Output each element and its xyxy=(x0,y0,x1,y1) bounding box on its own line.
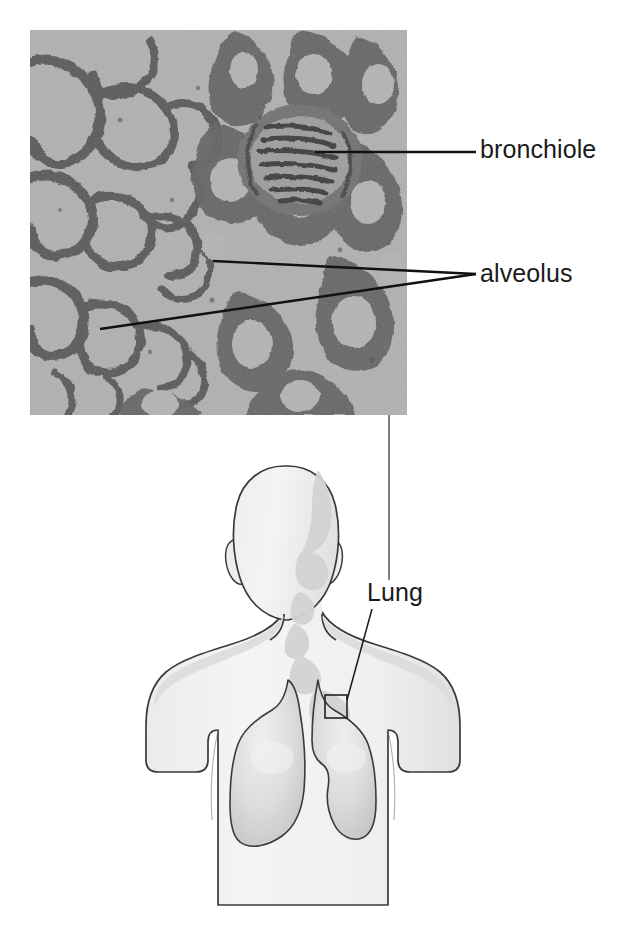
arm-crease-left xyxy=(211,730,218,820)
label-lung: Lung xyxy=(367,578,423,607)
lung-tissue-micrograph xyxy=(30,30,407,418)
human-torso-front-view xyxy=(146,466,460,905)
label-alveolus: alveolus xyxy=(480,259,573,288)
arm-crease-right xyxy=(388,730,395,820)
lung-histology-figure: bronchiole alveolus Lung xyxy=(0,0,634,925)
label-bronchiole: bronchiole xyxy=(480,135,596,164)
